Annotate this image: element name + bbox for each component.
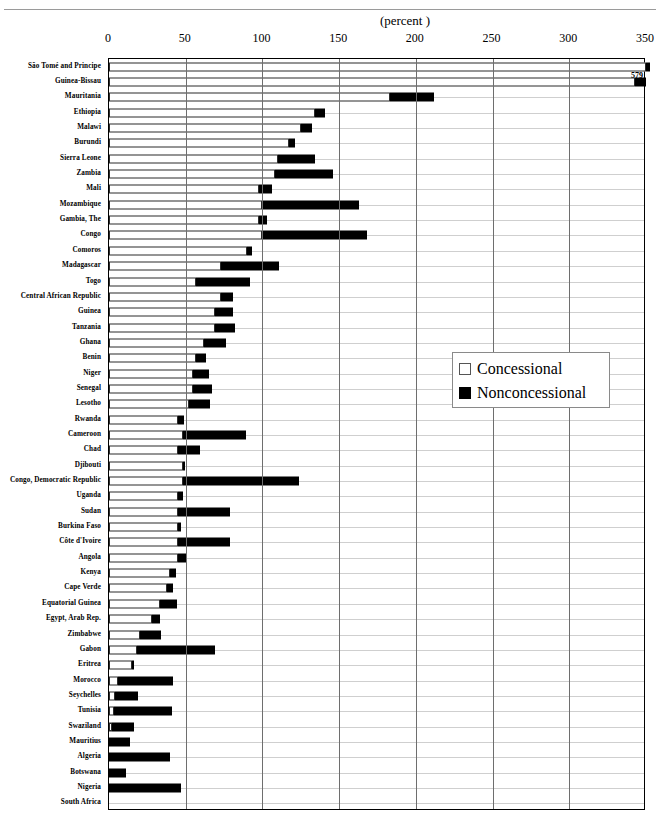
y-label-algeria: Algeria — [78, 752, 101, 760]
legend-item-nonconcessional: Nonconcessional — [459, 381, 603, 405]
bar-segment-nonconcessional — [178, 446, 199, 455]
bar-row — [109, 704, 644, 719]
bar-segment-nonconcessional — [215, 308, 233, 317]
bar-segment-concessional — [109, 185, 259, 194]
bar-segment-nonconcessional — [109, 783, 181, 792]
bar-row — [109, 136, 644, 151]
annotation-value: 579 — [631, 70, 643, 79]
bar-segment-concessional — [109, 369, 193, 378]
bar-segment-nonconcessional — [390, 93, 434, 102]
bar-segment-nonconcessional — [109, 768, 126, 777]
bar-row — [109, 596, 644, 611]
bar-segment-concessional — [109, 216, 259, 225]
bar-segment-concessional — [109, 645, 137, 654]
bar-segment-nonconcessional — [215, 323, 235, 332]
legend-swatch-concessional-icon — [459, 363, 471, 375]
y-label-eritrea: Eritrea — [78, 660, 101, 668]
legend-swatch-nonconcessional-icon — [459, 387, 471, 399]
y-label-ghana: Ghana — [80, 338, 101, 346]
row-baseline — [109, 558, 644, 559]
bar-segment-concessional — [109, 78, 635, 87]
bar-row — [109, 105, 644, 120]
bar-segment-concessional — [109, 124, 301, 133]
y-label-mauritania: Mauritania — [65, 92, 101, 100]
bar-row — [109, 550, 644, 565]
bar-segment-nonconcessional — [259, 185, 271, 194]
y-label-central-african-republic: Central African Republic — [21, 292, 101, 300]
y-label-angola: Angola — [78, 553, 101, 561]
bar-segment-concessional — [109, 676, 118, 685]
bar-row — [109, 74, 644, 89]
legend-item-concessional: Concessional — [459, 357, 603, 381]
plot-area: 579 — [108, 58, 645, 810]
y-label-uganda: Uganda — [76, 491, 101, 499]
y-label-ethiopia: Ethiopia — [74, 108, 101, 116]
figure-horizontal-stacked-bar-chart: (percent ) 050100150200250300350 579 São… — [0, 0, 660, 821]
bar-row — [109, 443, 644, 458]
bar-row — [109, 658, 644, 673]
bar-segment-concessional — [109, 292, 221, 301]
y-label-zambia: Zambia — [76, 169, 101, 177]
bar-segment-nonconcessional — [109, 737, 130, 746]
y-label-egypt-arab-rep: Egypt, Arab Rep. — [46, 614, 101, 622]
x-tick-label-150: 150 — [329, 31, 347, 46]
y-label-rwanda: Rwanda — [75, 415, 101, 423]
bar-segment-concessional — [109, 384, 193, 393]
bar-segment-nonconcessional — [204, 338, 225, 347]
bar-row — [109, 427, 644, 442]
row-baseline — [109, 527, 644, 528]
bar-segment-nonconcessional — [167, 584, 173, 593]
bar-segment-nonconcessional — [178, 492, 183, 501]
y-label-c-te-d-ivoire: Côte d'Ivoire — [59, 537, 101, 545]
row-baseline — [109, 681, 644, 682]
bar-row — [109, 90, 644, 105]
bar-row — [109, 504, 644, 519]
x-tick-label-300: 300 — [559, 31, 577, 46]
bar-row — [109, 719, 644, 734]
bar-row — [109, 642, 644, 657]
bar-row — [109, 120, 644, 135]
row-baseline — [109, 757, 644, 758]
row-baseline — [109, 665, 644, 666]
y-label-guinea: Guinea — [78, 307, 101, 315]
y-label-seychelles: Seychelles — [69, 691, 101, 699]
y-label-cameroon: Cameroon — [68, 430, 101, 438]
row-baseline — [109, 742, 644, 743]
bar-row — [109, 197, 644, 212]
bar-row — [109, 565, 644, 580]
x-tick-label-250: 250 — [483, 31, 501, 46]
bar-segment-concessional — [109, 400, 189, 409]
y-label-gambia-the: Gambia, The — [60, 215, 101, 223]
bar-segment-nonconcessional — [109, 753, 170, 762]
bar-row — [109, 228, 644, 243]
bar-segment-concessional — [109, 661, 132, 670]
bar-segment-concessional — [109, 599, 160, 608]
row-baseline — [109, 727, 644, 728]
y-label-morocco: Morocco — [73, 676, 101, 684]
bar-segment-nonconcessional — [160, 599, 177, 608]
bar-segment-nonconcessional — [262, 231, 366, 240]
bar-segment-concessional — [109, 507, 178, 516]
x-tick-label-200: 200 — [406, 31, 424, 46]
y-label-senegal: Senegal — [77, 384, 101, 392]
bar-segment-nonconcessional — [183, 477, 300, 486]
bar-row — [109, 305, 644, 320]
bar-row — [109, 627, 644, 642]
y-label-sierra-leone: Sierra Leone — [60, 154, 101, 162]
y-label-mauritius: Mauritius — [69, 737, 101, 745]
y-label-benin: Benin — [83, 353, 101, 361]
bar-row — [109, 289, 644, 304]
bar-segment-nonconcessional — [275, 170, 333, 179]
bar-segment-concessional — [109, 93, 390, 102]
bar-segment-nonconcessional — [114, 707, 172, 716]
bar-segment-concessional — [109, 62, 646, 71]
bar-row — [109, 259, 644, 274]
bar-segment-nonconcessional — [289, 139, 295, 148]
bar-row — [109, 581, 644, 596]
y-label-congo-democratic-republic: Congo, Democratic Republic — [10, 476, 101, 484]
bar-row — [109, 535, 644, 550]
top-rule-divider — [4, 9, 656, 10]
bar-segment-nonconcessional — [247, 246, 252, 255]
row-baseline — [109, 588, 644, 589]
clipped-caption-strip — [0, 0, 660, 9]
